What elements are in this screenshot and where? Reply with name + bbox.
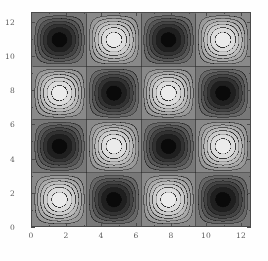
y-tick-major: [31, 56, 35, 57]
y-tick-minor-right: [249, 141, 251, 142]
x-tick-label: 2: [64, 231, 69, 240]
x-tick-major-top: [171, 12, 172, 16]
x-tick-label: 10: [201, 231, 211, 240]
x-tick-major: [171, 223, 172, 227]
y-tick-minor: [31, 107, 33, 108]
y-tick-minor-right: [249, 107, 251, 108]
x-tick-major: [101, 223, 102, 227]
y-tick-major-right: [247, 22, 251, 23]
x-tick-minor-top: [154, 12, 155, 14]
y-tick-major: [31, 22, 35, 23]
y-tick-major-right: [247, 124, 251, 125]
x-tick-major-top: [241, 12, 242, 16]
y-tick-label: 8: [10, 86, 15, 95]
x-tick-major: [206, 223, 207, 227]
y-tick-minor: [31, 141, 33, 142]
y-tick-minor: [31, 39, 33, 40]
y-tick-major-right: [247, 90, 251, 91]
x-tick-minor: [119, 225, 120, 227]
plot-frame: [31, 12, 251, 227]
x-tick-minor-top: [189, 12, 190, 14]
y-tick-label: 2: [10, 188, 15, 197]
y-tick-major-right: [247, 159, 251, 160]
x-tick-minor: [154, 225, 155, 227]
y-tick-major: [31, 227, 35, 228]
y-tick-major: [31, 90, 35, 91]
x-tick-minor-top: [119, 12, 120, 14]
x-tick-label: 12: [236, 231, 246, 240]
y-tick-major-right: [247, 56, 251, 57]
x-tick-minor: [224, 225, 225, 227]
x-tick-major: [66, 223, 67, 227]
y-tick-label: 12: [5, 17, 15, 26]
y-tick-label: 6: [10, 120, 15, 129]
y-tick-label: 0: [10, 223, 15, 232]
y-tick-label: 10: [5, 51, 15, 60]
y-tick-major-right: [247, 193, 251, 194]
y-tick-minor-right: [249, 210, 251, 211]
x-tick-major-top: [101, 12, 102, 16]
x-tick-minor-top: [224, 12, 225, 14]
contour-heatmap-canvas: [32, 13, 250, 226]
y-tick-minor-right: [249, 73, 251, 74]
x-tick-label: 0: [29, 231, 34, 240]
x-tick-minor-top: [84, 12, 85, 14]
y-tick-minor-right: [249, 176, 251, 177]
x-tick-major: [241, 223, 242, 227]
x-tick-minor: [49, 225, 50, 227]
x-tick-major: [136, 223, 137, 227]
y-tick-major: [31, 124, 35, 125]
x-tick-label: 4: [99, 231, 104, 240]
y-tick-major: [31, 159, 35, 160]
y-tick-minor: [31, 73, 33, 74]
y-tick-minor: [31, 176, 33, 177]
x-tick-label: 8: [169, 231, 174, 240]
x-tick-minor-top: [49, 12, 50, 14]
contour-plot-figure: 024681012 024681012: [0, 0, 268, 261]
y-tick-minor: [31, 210, 33, 211]
x-tick-major-top: [31, 12, 32, 16]
x-tick-label: 6: [134, 231, 139, 240]
y-tick-major-right: [247, 227, 251, 228]
y-tick-major: [31, 193, 35, 194]
y-tick-label: 4: [10, 154, 15, 163]
x-tick-minor: [84, 225, 85, 227]
x-tick-major-top: [136, 12, 137, 16]
x-tick-major-top: [206, 12, 207, 16]
x-tick-major-top: [66, 12, 67, 16]
y-tick-minor-right: [249, 39, 251, 40]
x-tick-minor: [189, 225, 190, 227]
